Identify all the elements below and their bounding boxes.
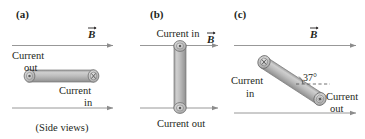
panel-b-current-out-label: Current out [157, 118, 205, 130]
panel-c-current-in-line2: in [246, 88, 254, 100]
panel-c-current-in-line1: Current [231, 75, 263, 87]
wire-end-a-right-current-in [88, 70, 99, 82]
panel-c-current-out-line2: out [330, 103, 343, 115]
figure-caption-side-views: (Side views) [36, 122, 89, 133]
panel-a-current-out-line2: out [24, 62, 37, 74]
panel-b-wire [174, 41, 186, 114]
panel-c-current-out-line1: Current [326, 91, 358, 103]
panel-label-c: (c) [234, 8, 246, 20]
field-label-a: B [88, 28, 95, 40]
field-label-b: B [207, 33, 214, 45]
wire-body-b [174, 45, 186, 108]
wire-end-b-bottom-current-out [174, 103, 186, 114]
vector-arrow-icon-c [310, 26, 319, 30]
panel-label-a: (a) [16, 8, 29, 20]
wire-end-b-top-current-in [174, 41, 186, 52]
panel-c-wire [255, 53, 330, 108]
field-label-c: B [310, 28, 317, 40]
physics-figure-wire-in-magnetic-field: (a) (b) (c) B Current out Current in (Si… [0, 0, 365, 139]
panel-a-current-in-line2: in [84, 97, 92, 109]
current-out-dot-a [28, 75, 31, 78]
current-out-dot-c [319, 98, 321, 100]
current-symbol-b-top [179, 45, 182, 48]
current-out-dot-b [179, 107, 182, 110]
panel-label-b: (b) [150, 8, 163, 20]
panel-c-angle-label: 37° [303, 72, 317, 84]
panel-b-current-in-label: Current in [157, 28, 200, 40]
vector-arrow-icon-b [207, 31, 216, 35]
vector-arrow-icon-a [88, 26, 97, 30]
wire-body-a [28, 70, 94, 82]
panel-a-current-in-line1: Current [59, 85, 91, 97]
panel-a-current-out-line1: Current [12, 50, 44, 62]
